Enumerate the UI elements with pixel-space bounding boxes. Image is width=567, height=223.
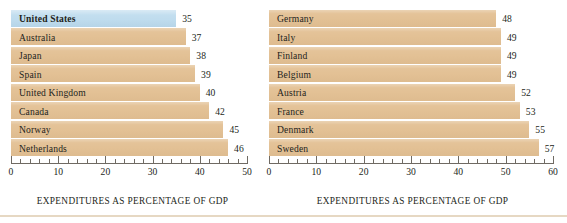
chart-figure: United States35Australia37Japan38Spain39… (0, 0, 567, 223)
bar-category-label: Denmark (277, 124, 314, 135)
bar-category-label: Sweden (277, 142, 308, 153)
bar-row: Germany48 (258, 10, 567, 27)
axis-tick-minor (335, 159, 336, 163)
bar-category-label: Austria (277, 87, 306, 98)
bar-row: Italy49 (258, 28, 567, 45)
axis-tick-minor (171, 159, 172, 163)
axis-tick-minor (87, 159, 88, 163)
bar-category-label: Norway (19, 124, 51, 135)
bar-row: Spain39 (0, 65, 265, 82)
axis-tick-major (506, 156, 507, 163)
axis-tick-label: 60 (548, 166, 558, 177)
bar: Belgium (269, 65, 501, 82)
axis-tick-minor (39, 159, 40, 163)
bar-row: United States35 (0, 10, 265, 27)
axis-tick-minor (383, 159, 384, 163)
axis-tick-label: 40 (195, 166, 205, 177)
bar: Japan (11, 47, 190, 64)
axis-tick-minor (143, 159, 144, 163)
axis-tick-minor (420, 159, 421, 163)
axis-tick-minor (209, 159, 210, 163)
axis-tick-minor (20, 159, 21, 163)
axis-tick-label: 50 (501, 166, 511, 177)
axis-line (11, 163, 248, 164)
bar: Spain (11, 65, 195, 82)
axis-tick-major (153, 156, 154, 163)
bar-value-label: 37 (192, 31, 202, 42)
bar-category-label: United States (19, 13, 76, 24)
axis-tick-minor (228, 159, 229, 163)
axis-tick-minor (392, 159, 393, 163)
bar-category-label: Italy (277, 31, 295, 42)
bar-row: Norway45 (0, 121, 265, 138)
bar-value-label: 39 (201, 68, 211, 79)
axis-tick-minor (297, 159, 298, 163)
bar-value-label: 53 (526, 105, 536, 116)
bar-row: Denmark55 (258, 121, 567, 138)
axis-tick-minor (326, 159, 327, 163)
bar-value-label: 48 (502, 13, 512, 24)
bar-highlighted: United States (11, 10, 176, 27)
axis-tick-minor (449, 159, 450, 163)
left-panel-axis-title: EXPENDITURES AS PERCENTAGE OF GDP (0, 196, 265, 206)
axis-line (269, 163, 554, 164)
bar: Germany (269, 10, 496, 27)
axis-tick-major (553, 156, 554, 163)
axis-tick-minor (190, 159, 191, 163)
axis-tick-label: 10 (312, 166, 322, 177)
right-panel-axis-title: EXPENDITURES AS PERCENTAGE OF GDP (258, 196, 567, 206)
axis-tick-minor (496, 159, 497, 163)
bar-category-label: Germany (277, 13, 314, 24)
bar: France (269, 102, 520, 119)
bar-value-label: 52 (521, 87, 531, 98)
bar-row: Finland49 (258, 47, 567, 64)
axis-tick-minor (115, 159, 116, 163)
bar-row: Austria52 (258, 84, 567, 101)
axis-tick-minor (278, 159, 279, 163)
bar: Canada (11, 102, 209, 119)
axis-tick-minor (134, 159, 135, 163)
axis-tick-minor (49, 159, 50, 163)
bar-row: France53 (258, 102, 567, 119)
bar-category-label: Australia (19, 31, 56, 42)
bar-row: Sweden57 (258, 139, 567, 156)
axis-tick-minor (534, 159, 535, 163)
axis-tick-minor (544, 159, 545, 163)
bar-category-label: United Kingdom (19, 87, 86, 98)
bar-value-label: 55 (535, 124, 545, 135)
axis-tick-minor (515, 159, 516, 163)
axis-tick-minor (525, 159, 526, 163)
right-panel-bar-rows: Germany48Italy49Finland49Belgium49Austri… (258, 10, 567, 158)
bar-value-label: 38 (196, 50, 206, 61)
axis-tick-label: 20 (101, 166, 111, 177)
axis-tick-major (411, 156, 412, 163)
bar-value-label: 45 (229, 124, 239, 135)
bar: Netherlands (11, 139, 228, 156)
axis-tick-minor (77, 159, 78, 163)
bar-category-label: Canada (19, 105, 49, 116)
axis-tick-minor (162, 159, 163, 163)
axis-tick-minor (238, 159, 239, 163)
axis-tick-major (58, 156, 59, 163)
bar: Norway (11, 121, 223, 138)
axis-tick-label: 50 (242, 166, 252, 177)
axis-tick-major (11, 156, 12, 163)
bar: United Kingdom (11, 84, 200, 101)
bar: Australia (11, 28, 186, 45)
axis-tick-major (200, 156, 201, 163)
left-panel-bar-rows: United States35Australia37Japan38Spain39… (0, 10, 265, 158)
axis-tick-label: 10 (53, 166, 63, 177)
bar: Austria (269, 84, 515, 101)
axis-tick-minor (96, 159, 97, 163)
axis-tick-minor (124, 159, 125, 163)
bar: Finland (269, 47, 501, 64)
axis-tick-minor (219, 159, 220, 163)
bar-category-label: Finland (277, 50, 307, 61)
axis-tick-major (458, 156, 459, 163)
axis-tick-label: 0 (267, 166, 272, 177)
axis-tick-major (316, 156, 317, 163)
bar-category-label: Spain (19, 68, 42, 79)
axis-tick-label: 30 (148, 166, 158, 177)
bar-value-label: 57 (545, 142, 555, 153)
bar-row: Australia37 (0, 28, 265, 45)
